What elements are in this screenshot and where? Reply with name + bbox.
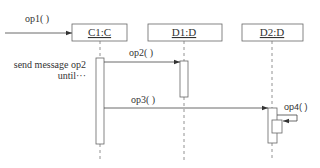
annotation-line1: send message op2: [14, 59, 86, 70]
message-op3-label: op3( ): [131, 94, 155, 106]
message-op1-label: op1( ): [25, 13, 49, 25]
activation-d2-nested: [272, 120, 282, 133]
object-c1-label: C1:C: [88, 26, 111, 38]
object-d2-label: D2:D: [260, 26, 285, 38]
activation-c1: [96, 58, 104, 144]
activation-d1: [180, 61, 188, 97]
message-op4-label: op4( ): [284, 102, 308, 112]
sequence-diagram: C1:C D1:D D2:D op1( ) op2( ) op3( ) op4(…: [0, 0, 320, 168]
object-d1-label: D1:D: [172, 26, 197, 38]
message-op2-label: op2( ): [129, 47, 153, 59]
object-d2: D2:D: [242, 24, 303, 41]
annotation-line2: until···: [58, 70, 86, 81]
object-c1: C1:C: [72, 24, 127, 41]
object-d1: D1:D: [148, 24, 222, 41]
